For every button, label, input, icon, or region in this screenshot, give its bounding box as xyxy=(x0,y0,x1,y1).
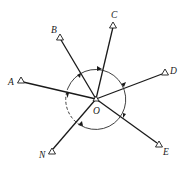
label-E: E xyxy=(162,147,169,157)
ray-O-C xyxy=(96,27,113,99)
ray-O-E xyxy=(96,99,157,143)
arrow-icon xyxy=(78,121,83,126)
arrow-icon xyxy=(123,113,126,118)
arrow-icon xyxy=(66,93,69,98)
label-B: B xyxy=(51,25,57,35)
arrow-icon xyxy=(121,82,126,87)
ray-O-D xyxy=(96,74,162,99)
station-D-icon xyxy=(162,69,169,75)
arrow-icon xyxy=(77,73,81,78)
label-A: A xyxy=(7,77,14,87)
label-D: D xyxy=(169,66,177,76)
label-N: N xyxy=(38,150,46,160)
station-B-icon xyxy=(57,34,64,40)
station-N-icon xyxy=(49,148,56,154)
station-C-icon xyxy=(110,22,117,28)
label-O: O xyxy=(93,106,100,116)
survey-diagram: A B C D E N O xyxy=(0,0,179,172)
station-A-icon xyxy=(18,77,25,83)
label-C: C xyxy=(111,10,118,20)
ray-O-N xyxy=(53,99,96,149)
ray-O-A xyxy=(23,82,96,99)
